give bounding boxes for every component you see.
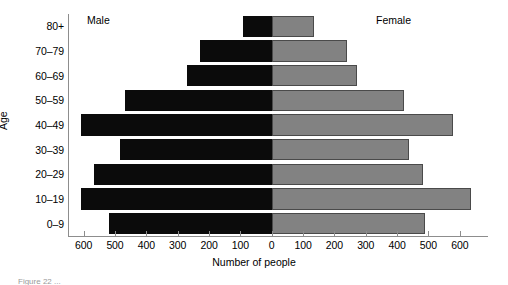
y-tick-label: 60–69	[35, 70, 64, 82]
x-tick	[334, 231, 335, 236]
pyramid-row	[68, 164, 488, 185]
bar-male-40-49	[81, 114, 272, 135]
pyramid-row	[68, 40, 488, 61]
bars-layer	[68, 14, 488, 236]
y-tick-label: 70–79	[35, 45, 64, 57]
bar-female-40-49	[272, 114, 453, 135]
x-tick	[115, 231, 116, 236]
y-tick-label: 40–49	[35, 119, 64, 131]
bar-female-70-79	[272, 40, 347, 61]
x-tick-label: 300	[357, 239, 374, 251]
x-tick-label: 600	[451, 239, 468, 251]
bar-male-70-79	[200, 40, 271, 61]
x-tick	[209, 231, 210, 236]
x-tick	[303, 231, 304, 236]
pyramid-row	[68, 139, 488, 160]
bar-male-30-39	[120, 139, 272, 160]
pyramid-row	[68, 114, 488, 135]
bar-male-80+	[243, 16, 272, 37]
bar-female-0-9	[272, 213, 426, 234]
x-tick-label: 500	[106, 239, 123, 251]
pyramid-row	[68, 188, 488, 209]
x-tick	[178, 231, 179, 236]
x-axis-title: Number of people	[0, 256, 508, 268]
plot-area	[68, 14, 488, 236]
x-tick-label: 100	[294, 239, 311, 251]
y-tick-label: 30–39	[35, 144, 64, 156]
population-pyramid-figure: Male Female 0–910–1920–2930–3940–4950–59…	[0, 0, 508, 285]
bar-female-30-39	[272, 139, 410, 160]
x-tick	[397, 231, 398, 236]
x-tick	[84, 231, 85, 236]
y-axis-title: Age	[0, 111, 9, 130]
x-tick	[366, 231, 367, 236]
x-tick	[240, 231, 241, 236]
pyramid-row	[68, 65, 488, 86]
x-axis-line	[68, 236, 488, 237]
pyramid-row	[68, 213, 488, 234]
y-tick-label: 20–29	[35, 168, 64, 180]
x-tick	[460, 231, 461, 236]
x-tick-label: 300	[169, 239, 186, 251]
pyramid-row	[68, 16, 488, 37]
bar-male-0-9	[109, 213, 271, 234]
x-tick-label: 100	[232, 239, 249, 251]
x-tick	[428, 231, 429, 236]
pyramid-row	[68, 90, 488, 111]
x-tick-label: 400	[138, 239, 155, 251]
figure-caption: Figure 22 ...	[18, 277, 488, 285]
x-tick-label: 0	[269, 239, 275, 251]
bar-male-10-19	[81, 188, 271, 209]
x-tick-label: 200	[326, 239, 343, 251]
y-axis-tick-labels: 0–910–1920–2930–3940–4950–5960–6970–7980…	[0, 14, 64, 236]
y-tick-label: 50–59	[35, 94, 64, 106]
x-tick-label: 500	[420, 239, 437, 251]
bar-female-50-59	[272, 90, 405, 111]
x-tick-label: 200	[200, 239, 217, 251]
bar-male-20-29	[94, 164, 272, 185]
y-tick-label: 10–19	[35, 193, 64, 205]
y-tick-label: 0–9	[47, 218, 64, 230]
bar-female-10-19	[272, 188, 471, 209]
y-tick-label: 80+	[46, 20, 64, 32]
x-tick-label: 400	[388, 239, 405, 251]
x-tick	[272, 231, 273, 236]
bar-female-20-29	[272, 164, 424, 185]
bar-female-60-69	[272, 65, 357, 86]
x-tick	[146, 231, 147, 236]
bar-female-80+	[272, 16, 314, 37]
x-tick-label: 600	[75, 239, 92, 251]
bar-male-60-69	[187, 65, 272, 86]
bar-male-50-59	[125, 90, 272, 111]
